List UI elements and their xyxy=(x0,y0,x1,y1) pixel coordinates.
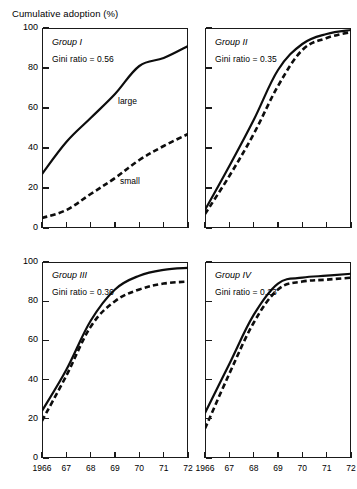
x-axis-tick xyxy=(302,222,303,228)
x-axis-tick xyxy=(66,222,67,228)
x-axis-tick xyxy=(114,222,115,228)
x-axis-tick xyxy=(163,222,164,228)
y-axis-tick xyxy=(43,147,49,148)
x-axis-tick-label: 72 xyxy=(337,463,357,473)
series-line-small xyxy=(205,278,351,429)
x-axis-tick xyxy=(114,452,115,458)
y-axis-tick-label: 40 xyxy=(8,142,38,152)
y-axis-tick xyxy=(206,107,212,108)
y-axis-tick xyxy=(206,379,212,380)
x-axis-tick xyxy=(350,222,351,228)
y-axis-tick xyxy=(43,457,49,458)
figure-canvas: Cumulative adoption (%) Group I Gini rat… xyxy=(0,0,357,489)
x-axis-tick xyxy=(187,222,188,228)
y-axis-tick xyxy=(43,301,49,302)
panel-group-3: Group III Gini ratio = 0.36 xyxy=(42,262,188,458)
x-axis-tick xyxy=(41,222,42,228)
series-annotation-large: large xyxy=(118,96,137,106)
x-axis-tick xyxy=(41,452,42,458)
y-axis-tick xyxy=(206,301,212,302)
panel-group-4: Group IV Gini ratio = 0.23 xyxy=(205,262,351,458)
y-axis-tick xyxy=(206,340,212,341)
x-axis-tick xyxy=(253,222,254,228)
y-axis-tick xyxy=(206,261,212,262)
x-axis-tick xyxy=(139,452,140,458)
y-axis-tick-label: 40 xyxy=(8,374,38,384)
panel-group-label: Group IV xyxy=(215,270,251,280)
panel-group-label: Group I xyxy=(52,37,82,47)
x-axis-tick xyxy=(350,452,351,458)
x-axis-tick xyxy=(229,222,230,228)
y-axis-tick xyxy=(43,67,49,68)
x-axis-tick xyxy=(90,452,91,458)
y-axis-tick xyxy=(43,340,49,341)
x-axis-tick xyxy=(139,222,140,228)
y-axis-tick xyxy=(43,261,49,262)
series-line-large xyxy=(42,46,188,174)
x-axis-tick xyxy=(204,222,205,228)
panel-gini-label: Gini ratio = 0.35 xyxy=(215,54,277,64)
panel-group-2: Group II Gini ratio = 0.35 xyxy=(205,28,351,228)
y-axis-tick-label: 20 xyxy=(8,413,38,423)
x-axis-tick xyxy=(163,452,164,458)
panel-group-label: Group III xyxy=(52,270,87,280)
y-axis-tick xyxy=(43,227,49,228)
y-axis-tick xyxy=(43,379,49,380)
x-axis-tick xyxy=(253,452,254,458)
panel-gini-label: Gini ratio = 0.23 xyxy=(215,287,277,297)
panel-gini-label: Gini ratio = 0.36 xyxy=(52,287,114,297)
x-axis-tick xyxy=(326,452,327,458)
panel-gini-label: Gini ratio = 0.56 xyxy=(52,54,114,64)
y-axis-tick xyxy=(206,147,212,148)
y-axis-tick-label: 80 xyxy=(8,295,38,305)
y-axis-tick xyxy=(206,67,212,68)
x-axis-tick xyxy=(204,452,205,458)
y-axis-tick-label: 60 xyxy=(8,334,38,344)
series-line-small xyxy=(42,282,188,421)
x-axis-tick xyxy=(66,452,67,458)
panel-group-1: Group I Gini ratio = 0.56 large small xyxy=(42,28,188,228)
y-axis-tick-label: 100 xyxy=(8,256,38,266)
y-axis-tick-label: 80 xyxy=(8,62,38,72)
x-axis-tick xyxy=(229,452,230,458)
y-axis-tick xyxy=(206,457,212,458)
x-axis-tick xyxy=(326,222,327,228)
y-axis-tick-label: 60 xyxy=(8,102,38,112)
x-axis-tick xyxy=(277,222,278,228)
y-axis-tick xyxy=(206,187,212,188)
y-axis-tick-label: 20 xyxy=(8,182,38,192)
y-axis-tick-label: 0 xyxy=(8,222,38,232)
x-axis-tick xyxy=(187,452,188,458)
series-annotation-small: small xyxy=(120,176,140,186)
y-axis-tick xyxy=(206,418,212,419)
y-axis-tick xyxy=(206,27,212,28)
y-axis-tick xyxy=(43,27,49,28)
y-axis-tick-label: 100 xyxy=(8,22,38,32)
y-axis-tick xyxy=(43,187,49,188)
y-axis-tick-label: 0 xyxy=(8,452,38,462)
x-axis-tick xyxy=(277,452,278,458)
y-axis-tick xyxy=(43,107,49,108)
y-axis-tick xyxy=(206,227,212,228)
y-axis-tick xyxy=(43,418,49,419)
axis-title: Cumulative adoption (%) xyxy=(12,8,118,19)
x-axis-tick xyxy=(302,452,303,458)
x-axis-tick xyxy=(90,222,91,228)
panel-group-label: Group II xyxy=(215,37,248,47)
